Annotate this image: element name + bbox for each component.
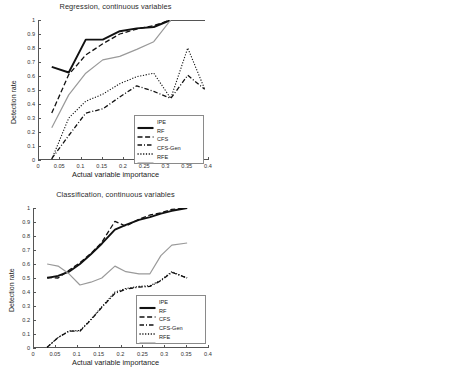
x-tick-mark: [164, 345, 165, 348]
legend-line-swatch-icon: [137, 118, 154, 126]
legend-label: RF: [157, 128, 164, 134]
y-tick-label: 0.6: [14, 261, 30, 267]
y-tick-mark: [38, 146, 41, 147]
legend-line-swatch-icon: [137, 127, 154, 135]
y-tick-label: 0.1: [19, 143, 35, 149]
x-tick-mark: [55, 345, 56, 348]
x-tick-mark: [186, 345, 187, 348]
legend-line-swatch-icon: [139, 315, 156, 323]
legend-line-swatch-icon: [139, 298, 156, 306]
y-tick-mark: [38, 160, 41, 161]
x-tick-mark: [121, 345, 122, 348]
legend-line-swatch-icon: [137, 153, 154, 161]
y-tick-mark: [38, 104, 41, 105]
y-tick-mark: [33, 236, 36, 237]
series-ipe: [52, 20, 205, 73]
x-tick-mark: [38, 157, 39, 160]
y-tick-mark: [33, 264, 36, 265]
legend-label: RFE: [159, 334, 170, 340]
y-tick-label: 0.3: [14, 303, 30, 309]
legend-item-cfs-gen: CFS-Gen: [139, 324, 202, 333]
y-tick-mark: [33, 278, 36, 279]
y-tick-label: 0.2: [14, 317, 30, 323]
y-tick-label: 0.9: [19, 31, 35, 37]
y-tick-label: 0.5: [14, 275, 30, 281]
y-tick-label: 1: [19, 17, 35, 23]
x-tick-label: 0.15: [93, 351, 104, 357]
x-tick-label: 0.4: [204, 163, 212, 169]
y-tick-mark: [38, 90, 41, 91]
y-tick-label: 0.7: [19, 59, 35, 65]
x-tick-label: 0: [36, 163, 39, 169]
x-tick-mark: [33, 345, 34, 348]
y-tick-label: 0: [19, 157, 35, 163]
y-tick-label: 0: [14, 345, 30, 351]
x-tick-mark: [208, 345, 209, 348]
y-tick-label: 0.4: [19, 101, 35, 107]
y-tick-mark: [33, 320, 36, 321]
series-rfe: [47, 243, 187, 285]
x-axis-label: Actual variable importance: [0, 170, 231, 179]
y-axis-label: Detection rate: [10, 80, 17, 124]
x-tick-label: 0: [31, 351, 34, 357]
x-tick-mark: [59, 157, 60, 160]
y-tick-label: 0.8: [14, 233, 30, 239]
y-tick-label: 0.8: [19, 45, 35, 51]
y-tick-mark: [33, 334, 36, 335]
y-tick-label: 0.6: [19, 73, 35, 79]
x-tick-label: 0.05: [49, 351, 60, 357]
y-tick-label: 0.1: [14, 331, 30, 337]
panel-regression-bars: 00.10.20.30.40.50.60.70.80.91 IPERFCFSCF…: [231, 2, 462, 192]
y-tick-mark: [38, 62, 41, 63]
legend-item-rfe: RFE: [139, 332, 202, 341]
legend-label: RFE: [157, 154, 168, 160]
legend-item-ipe: IPE: [137, 118, 200, 127]
x-tick-label: 0.1: [77, 163, 85, 169]
y-tick-mark: [33, 222, 36, 223]
x-axis-label: Actual variable importance: [0, 358, 231, 367]
legend-line-swatch-icon: [139, 307, 156, 315]
y-tick-mark: [33, 250, 36, 251]
y-tick-mark: [38, 48, 41, 49]
x-tick-mark: [99, 345, 100, 348]
x-tick-label: 0.35: [181, 351, 192, 357]
legend-item-rf: RF: [137, 127, 200, 136]
x-tick-mark: [123, 157, 124, 160]
legend-item-ipe: IPE: [139, 298, 202, 307]
legend-item-cfs: CFS: [137, 135, 200, 144]
legend-line-swatch-icon: [139, 324, 156, 332]
x-tick-label: 0.15: [96, 163, 107, 169]
panel-regression-line: Regression, continuous variables Detecti…: [0, 2, 231, 192]
y-tick-label: 0.2: [19, 129, 35, 135]
y-tick-mark: [38, 76, 41, 77]
y-tick-mark: [38, 20, 41, 21]
x-tick-label: 0.3: [160, 351, 168, 357]
y-tick-label: 0.9: [14, 219, 30, 225]
legend-item-rfe: RFE: [137, 152, 200, 161]
y-tick-mark: [38, 118, 41, 119]
legend-label: CFS-Gen: [157, 145, 181, 151]
legend-label: CFS-Gen: [159, 325, 183, 331]
chart-title: Regression, continuous variables: [0, 2, 231, 11]
x-tick-label: 0.4: [204, 351, 212, 357]
legend-label: RF: [159, 308, 166, 314]
legend-line-swatch-icon: [139, 333, 156, 341]
x-tick-label: 0.25: [137, 351, 148, 357]
y-tick-label: 0.7: [14, 247, 30, 253]
legend-label: CFS: [157, 136, 168, 142]
y-tick-mark: [38, 132, 41, 133]
y-tick-label: 0.3: [19, 115, 35, 121]
y-tick-label: 0.4: [14, 289, 30, 295]
legend-label: CFS: [159, 316, 170, 322]
legend-classification-line: IPERFCFSCFS-GenRFE: [136, 295, 206, 344]
legend-line-swatch-icon: [137, 144, 154, 152]
y-tick-label: 1: [14, 205, 30, 211]
legend-label: IPE: [157, 119, 166, 125]
x-tick-label: 0.2: [119, 163, 127, 169]
figure-canvas: Regression, continuous variables Detecti…: [0, 0, 462, 384]
x-tick-mark: [102, 157, 103, 160]
y-tick-label: 0.5: [19, 87, 35, 93]
y-tick-mark: [33, 348, 36, 349]
legend-item-cfs: CFS: [139, 315, 202, 324]
x-tick-label: 0.2: [117, 351, 125, 357]
